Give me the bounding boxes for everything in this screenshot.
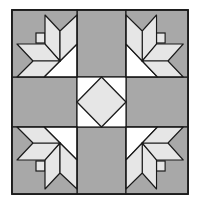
right-gray-square: [126, 77, 188, 127]
bottom-left-flower: [12, 127, 77, 194]
top-left-flower: [12, 10, 77, 77]
bottom-right-flower: [126, 127, 188, 194]
left-gray-square: [12, 77, 77, 127]
center-square-in-square: [77, 77, 126, 127]
top-right-flower: [126, 10, 188, 77]
bottom-gray-square: [77, 127, 126, 194]
quilt-block: [0, 0, 200, 206]
top-gray-square: [77, 10, 126, 77]
